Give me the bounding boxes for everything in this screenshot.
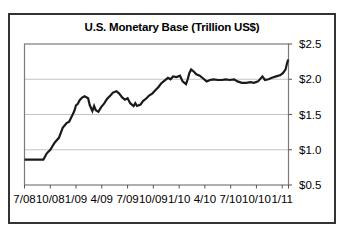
y-axis-label: $1.5 <box>299 108 335 122</box>
y-axis-label: $2.0 <box>299 72 335 86</box>
x-axis-label: 1/11 <box>264 192 300 206</box>
y-axis-label: $2.5 <box>299 37 335 51</box>
y-axis-label: $0.5 <box>299 178 335 192</box>
chart-title: U.S. Monetary Base (Trillion US$) <box>10 21 334 33</box>
monetary-base-line <box>25 60 289 160</box>
chart-figure: U.S. Monetary Base (Trillion US$) $2.5$2… <box>0 0 343 232</box>
y-axis-label: $1.0 <box>299 143 335 157</box>
